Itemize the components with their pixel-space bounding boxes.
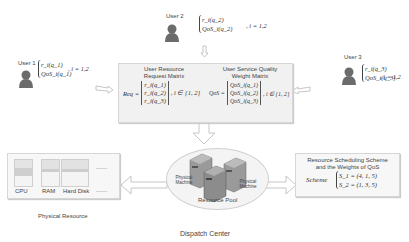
qos-matrix: User Service Quality Weight Matrix QoS =… (209, 66, 291, 105)
scheme-panel: Resource Scheduling Scheme and the Weigh… (295, 153, 400, 197)
request-matrix: User Resource Request Matrix Req = r_i(q… (123, 66, 205, 105)
matrix-panel: User Resource Request Matrix Req = r_i(q… (118, 63, 293, 123)
scheme-subtitle: and the Weights of QoS (296, 164, 399, 171)
matrix-body: QoS_i(q_1) QoS_i(q_2) QoS_i(q_3) (227, 81, 261, 105)
ellipsis: ........ (96, 164, 107, 170)
arrow-icon (265, 176, 296, 194)
matrix-row: r_i(q_2) (144, 89, 166, 97)
scheme-row: S_2 = (1, 3, 5) (339, 180, 377, 189)
qos-matrix-subtitle: Weight Matrix (209, 73, 291, 80)
dispatch-center-caption: Dispatch Center (180, 230, 230, 237)
machine-label-right: Physical Machine (237, 179, 259, 189)
cpu-label: CPU (15, 188, 28, 194)
request-matrix-title: User Resource (123, 66, 205, 73)
physical-resource-caption: Physical Resource (38, 213, 88, 219)
resource-pool-caption: Resource Pool (198, 197, 237, 203)
scheme-lhs: Scheme (306, 176, 327, 184)
scheme-values: S_1 = (4, 1, 5) S_2 = (1, 3, 5) (336, 171, 377, 189)
matrix-row: r_i(q_3) (144, 97, 166, 105)
cpu-bar (14, 159, 33, 187)
qos-matrix-title: User Service Quality (209, 66, 291, 73)
matrix-lhs: QoS = (209, 90, 225, 96)
scheme-title: Resource Scheduling Scheme (296, 157, 399, 164)
matrix-range: , i ∈ {1, 2} (171, 89, 200, 97)
physical-resource-panel: ........ CPU RAM Hard Disk ........ (7, 153, 120, 199)
arrow-icon (96, 86, 113, 93)
ellipsis: ........ (96, 187, 107, 193)
matrix-row: r_i(q_1) (144, 81, 166, 89)
scheme-row: S_1 = (4, 1, 5) (339, 171, 377, 180)
matrix-range: , i ∈ {1, 2} (263, 90, 289, 97)
matrix-body: r_i(q_1) r_i(q_2) r_i(q_3) (141, 81, 169, 105)
arrow-icon (201, 46, 208, 57)
arrow-icon (193, 121, 215, 144)
arrow-icon (121, 176, 167, 194)
qos-matrix-equation: QoS = QoS_i(q_1) QoS_i(q_2) QoS_i(q_3) ,… (209, 81, 291, 105)
dispatch-center-diagram: User 2 r_i(q_2) QoS_i(q_2) , i = 1,2 Use… (0, 0, 409, 242)
hard-disk-label: Hard Disk (63, 188, 89, 194)
request-matrix-equation: Req = r_i(q_1) r_i(q_2) r_i(q_3) , i ∈ {… (123, 81, 205, 105)
matrix-row: QoS_i(q_2) (230, 89, 258, 97)
ram-label: RAM (42, 188, 55, 194)
matrix-row: QoS_i(q_1) (230, 81, 258, 89)
arrow-icon (292, 87, 310, 94)
ram-bar (41, 159, 60, 187)
hard-disk-bar (61, 159, 89, 187)
matrix-lhs: Req = (123, 90, 139, 97)
matrix-row: QoS_i(q_3) (230, 97, 258, 105)
request-matrix-subtitle: Request Matrix (123, 73, 205, 80)
machine-label-left: Physical Machine (173, 175, 195, 185)
